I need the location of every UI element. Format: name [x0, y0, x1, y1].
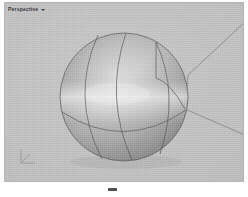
- perspective-viewport[interactable]: Perspective: [4, 2, 244, 182]
- bottom-strip: [0, 183, 248, 197]
- sphere-object[interactable]: [56, 30, 194, 169]
- construction-plane-lines: [185, 20, 244, 136]
- chevron-down-icon[interactable]: [41, 9, 45, 11]
- selection-marker: [108, 188, 117, 191]
- viewport-title-label: Perspective: [8, 6, 38, 13]
- viewport-title[interactable]: Perspective: [8, 6, 45, 13]
- axis-gnomon: [15, 143, 41, 169]
- gnomon-axis-y: [21, 154, 30, 163]
- sphere-specular: [56, 30, 194, 164]
- app-root: Perspective: [0, 0, 248, 197]
